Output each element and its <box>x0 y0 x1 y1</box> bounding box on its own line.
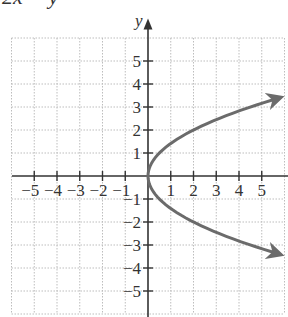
y-tick-label: −5 <box>123 282 141 301</box>
x-tick-label: −5 <box>21 181 39 200</box>
y-tick-label: −4 <box>123 259 142 278</box>
y-tick-label: 5 <box>133 52 142 71</box>
y-tick-label: 1 <box>133 144 142 163</box>
x-tick-label: 2 <box>189 181 198 200</box>
y-axis-label: y <box>133 11 143 30</box>
x-tick-label: 3 <box>212 181 221 200</box>
x-tick-label: −3 <box>67 181 85 200</box>
x-tick-label: 5 <box>258 181 267 200</box>
y-tick-label: 4 <box>133 75 142 94</box>
y-tick-label: −3 <box>123 236 141 255</box>
y-tick-label: −2 <box>123 213 141 232</box>
x-tick-label: −2 <box>89 181 107 200</box>
x-tick-label: 4 <box>235 181 244 200</box>
y-tick-label: −1 <box>123 190 141 209</box>
parabola-graph: −5−4−3−2−112345−5−4−3−2−112345 y <box>0 0 288 317</box>
x-tick-label: −4 <box>44 181 63 200</box>
y-tick-label: 2 <box>133 121 142 140</box>
y-tick-label: 3 <box>133 98 142 117</box>
x-tick-label: 1 <box>167 181 176 200</box>
